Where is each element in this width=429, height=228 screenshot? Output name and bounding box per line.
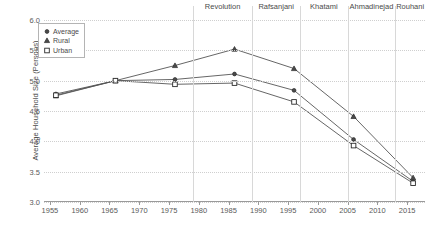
era-divider-line bbox=[193, 6, 194, 202]
legend-label: Urban bbox=[52, 47, 72, 54]
era-divider-line bbox=[348, 6, 349, 202]
data-point-urban bbox=[411, 181, 416, 186]
x-tick-mark bbox=[199, 202, 200, 205]
y-gridline bbox=[44, 20, 425, 21]
x-tick-mark bbox=[288, 202, 289, 205]
household-size-line-chart: Average Household Size (Persons) 3.03.54… bbox=[0, 0, 429, 228]
legend-label: Rural bbox=[52, 37, 70, 44]
x-tick-label: 1970 bbox=[131, 206, 148, 215]
legend-item-average[interactable]: Average bbox=[42, 27, 79, 36]
x-tick-label: 1990 bbox=[250, 206, 267, 215]
y-tick-label: 5.0 bbox=[30, 76, 40, 85]
series-line-rural bbox=[56, 49, 413, 178]
x-tick-label: 1980 bbox=[190, 206, 207, 215]
x-tick-label: 1955 bbox=[42, 206, 59, 215]
era-label: Rouhani bbox=[396, 2, 424, 11]
triangle-marker-icon bbox=[42, 36, 52, 45]
x-tick-label: 2010 bbox=[369, 206, 386, 215]
era-divider-line bbox=[300, 6, 301, 202]
x-tick-mark bbox=[318, 202, 319, 205]
data-point-urban bbox=[351, 143, 356, 148]
y-gridline bbox=[44, 172, 425, 173]
x-tick-label: 1985 bbox=[220, 206, 237, 215]
x-tick-mark bbox=[80, 202, 81, 205]
era-divider-line bbox=[252, 6, 253, 202]
series-line-urban bbox=[56, 81, 413, 184]
y-gridline bbox=[44, 202, 425, 203]
data-point-average bbox=[292, 88, 296, 92]
x-tick-mark bbox=[348, 202, 349, 205]
era-label: Revolution bbox=[205, 2, 240, 11]
circle-marker-icon bbox=[42, 27, 52, 36]
y-tick-label: 3.0 bbox=[30, 198, 40, 207]
x-tick-mark bbox=[407, 202, 408, 205]
x-tick-label: 1975 bbox=[161, 206, 178, 215]
data-point-urban bbox=[292, 100, 297, 105]
x-tick-mark bbox=[377, 202, 378, 205]
x-tick-mark bbox=[109, 202, 110, 205]
plot-area: 3.03.54.04.55.05.56.01955196019651970197… bbox=[44, 20, 425, 202]
y-tick-label: 3.5 bbox=[30, 167, 40, 176]
y-tick-label: 4.5 bbox=[30, 107, 40, 116]
x-tick-label: 2015 bbox=[399, 206, 416, 215]
x-tick-label: 2005 bbox=[339, 206, 356, 215]
era-divider-line bbox=[395, 6, 396, 202]
x-tick-mark bbox=[258, 202, 259, 205]
y-gridline bbox=[44, 141, 425, 142]
legend-label: Average bbox=[52, 28, 79, 35]
y-gridline bbox=[44, 50, 425, 51]
y-gridline bbox=[44, 81, 425, 82]
y-tick-label: 4.0 bbox=[30, 137, 40, 146]
x-tick-mark bbox=[229, 202, 230, 205]
data-point-average bbox=[233, 72, 237, 76]
series-line-average bbox=[56, 74, 413, 181]
data-point-urban bbox=[54, 93, 59, 98]
chart-legend: AverageRuralUrban bbox=[38, 23, 85, 58]
data-point-urban bbox=[173, 82, 178, 87]
era-label: Ahmadinejad bbox=[350, 2, 394, 11]
x-tick-label: 2000 bbox=[310, 206, 327, 215]
x-tick-mark bbox=[139, 202, 140, 205]
x-tick-mark bbox=[169, 202, 170, 205]
x-tick-label: 1995 bbox=[280, 206, 297, 215]
y-gridline bbox=[44, 111, 425, 112]
era-label: Rafsanjani bbox=[258, 2, 293, 11]
x-tick-mark bbox=[50, 202, 51, 205]
square-marker-icon bbox=[42, 46, 52, 55]
x-tick-label: 1965 bbox=[101, 206, 118, 215]
legend-item-urban[interactable]: Urban bbox=[42, 46, 79, 55]
legend-item-rural[interactable]: Rural bbox=[42, 36, 79, 45]
era-label: Khatami bbox=[310, 2, 338, 11]
x-tick-label: 1960 bbox=[71, 206, 88, 215]
